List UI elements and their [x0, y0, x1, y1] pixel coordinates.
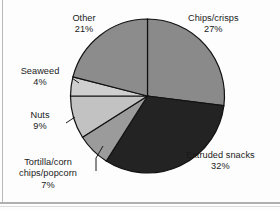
- pie-label-other-name: Other: [56, 13, 112, 24]
- pie-label-other: Other 21%: [56, 13, 112, 36]
- pie-label-tortilla-name-line2: chips/popcorn: [2, 168, 94, 179]
- pie-label-other-percent: 21%: [56, 24, 112, 35]
- pie-label-seaweed-percent: 4%: [8, 77, 72, 88]
- pie-label-extruded-snacks-percent: 32%: [186, 161, 255, 172]
- pie-label-nuts-percent: 9%: [16, 121, 64, 132]
- pie-label-tortilla-corn-chips-popcorn: Tortilla/corn chips/popcorn 7%: [2, 157, 94, 191]
- pie-label-nuts: Nuts 9%: [16, 110, 64, 133]
- pie-label-tortilla-percent: 7%: [2, 180, 94, 191]
- pie-chart-figure: Chips/crisps 27% Extruded snacks 32% Tor…: [0, 0, 280, 211]
- pie-label-seaweed-name: Seaweed: [8, 66, 72, 77]
- pie-label-chips-crisps-name: Chips/crisps: [188, 13, 239, 24]
- pie-label-nuts-name: Nuts: [16, 110, 64, 121]
- pie-label-extruded-snacks-name: Extruded snacks: [186, 150, 255, 161]
- pie-label-tortilla-name-line1: Tortilla/corn: [2, 157, 94, 168]
- pie-label-extruded-snacks: Extruded snacks 32%: [186, 150, 255, 173]
- pie-label-chips-crisps-percent: 27%: [188, 24, 239, 35]
- pie-label-seaweed: Seaweed 4%: [8, 66, 72, 89]
- pie-label-chips-crisps: Chips/crisps 27%: [188, 13, 239, 36]
